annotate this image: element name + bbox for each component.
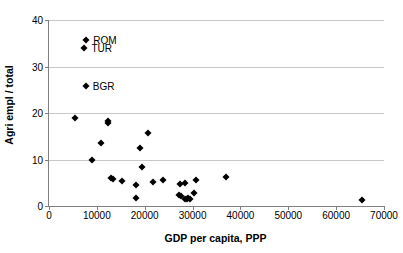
data-point: [118, 177, 125, 184]
plot-area: 010203040 010000200003000040000500006000…: [48, 20, 384, 207]
data-point: [145, 129, 152, 136]
scatter-chart: Agri empl / total 010203040 010000200003…: [0, 0, 403, 253]
y-tick-mark: [45, 113, 49, 114]
data-point: [83, 36, 90, 43]
data-point: [133, 195, 140, 202]
data-point: [181, 179, 188, 186]
x-tick-label: 50000: [274, 210, 302, 221]
x-axis-title: GDP per capita, PPP: [48, 232, 383, 244]
x-tick-label: 20000: [131, 210, 159, 221]
x-tick-label: 60000: [322, 210, 350, 221]
x-tick-label: 30000: [179, 210, 207, 221]
y-tick-mark: [45, 67, 49, 68]
y-axis-title: Agri empl / total: [2, 2, 16, 208]
x-tick-label: 70000: [370, 210, 398, 221]
gridline: [49, 160, 384, 161]
data-point: [89, 156, 96, 163]
gridline: [49, 20, 384, 21]
data-point: [132, 182, 139, 189]
data-point: [192, 177, 199, 184]
data-point-label: BGR: [93, 81, 115, 92]
y-tick-mark: [45, 160, 49, 161]
data-point: [359, 197, 366, 204]
data-point: [150, 178, 157, 185]
data-point: [97, 139, 104, 146]
data-point: [136, 144, 143, 151]
gridline: [49, 67, 384, 68]
data-point: [138, 163, 145, 170]
x-tick-label: 10000: [83, 210, 111, 221]
y-tick-label: 20: [32, 108, 43, 119]
y-tick-label: 0: [37, 201, 43, 212]
gridline: [49, 113, 384, 114]
x-tick-label: 0: [46, 210, 52, 221]
data-point-label: TUR: [91, 42, 112, 53]
data-point: [81, 44, 88, 51]
y-tick-label: 40: [32, 15, 43, 26]
y-tick-label: 10: [32, 154, 43, 165]
data-point: [72, 115, 79, 122]
data-point: [223, 173, 230, 180]
data-point: [160, 177, 167, 184]
data-point: [82, 82, 89, 89]
y-tick-mark: [45, 20, 49, 21]
x-tick-label: 40000: [227, 210, 255, 221]
data-point: [191, 189, 198, 196]
y-tick-label: 30: [32, 61, 43, 72]
